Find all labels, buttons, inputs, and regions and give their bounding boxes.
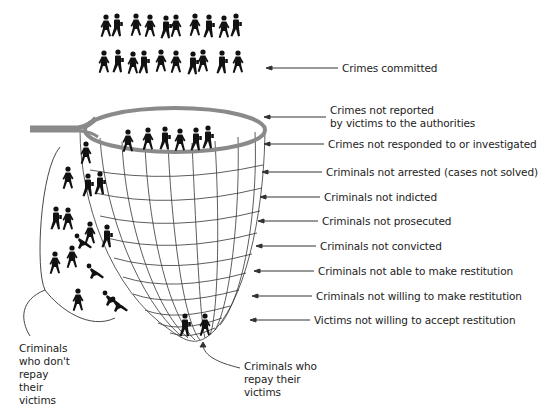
label-not-arrested: Criminals not arrested (cases not solved… (326, 166, 538, 179)
top-crowd (99, 13, 244, 74)
left-label-line: Criminals (19, 342, 67, 355)
bottom-leader (203, 346, 240, 368)
label-not-able: Criminals not able to make restitution (318, 265, 513, 278)
left-label-line: who don't (19, 355, 70, 368)
escaping-figures (50, 141, 129, 312)
left-label-line: repay (19, 368, 48, 381)
label-not-reported-2: by victims to the authorities (330, 117, 475, 130)
bottom-label-line: victims (244, 386, 281, 399)
label-not-reported-1: Crimes not reported (330, 104, 434, 117)
funnel-diagram (0, 0, 546, 416)
bottom-label-line: Criminals who (244, 360, 317, 373)
bottom-figures (180, 313, 211, 336)
left-label-line: victims (19, 394, 56, 407)
label-crimes-committed: Crimes committed (342, 62, 437, 75)
label-not-prosecuted: Criminals not prosecuted (322, 215, 451, 228)
label-not-investigated: Crimes not responded to or investigated (328, 138, 537, 151)
label-not-convicted: Criminals not convicted (320, 240, 442, 253)
label-not-willing: Criminals not willing to make restitutio… (316, 290, 522, 303)
left-label-line: their (19, 381, 43, 394)
bottom-label-line: repay their (244, 373, 301, 386)
left-bracket (24, 147, 60, 336)
label-not-indicted: Criminals not indicted (324, 191, 437, 204)
label-victims-not-willing: Victims not willing to accept restitutio… (314, 314, 515, 327)
